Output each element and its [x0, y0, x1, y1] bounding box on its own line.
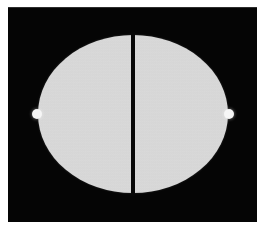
- figure-caption-text: Figure 4. Reconstructed image of the spl…: [0, 233, 264, 235]
- left-marker-bead: [32, 109, 42, 119]
- left-half-disc: [38, 35, 133, 193]
- figure-caption: Figure 4. Reconstructed image of the spl…: [0, 224, 264, 235]
- scan-image-plate: [8, 7, 257, 222]
- split-disc-phantom: [38, 35, 228, 193]
- figure-root: Figure 4. Reconstructed image of the spl…: [0, 0, 264, 235]
- central-gap-septum: [131, 32, 135, 196]
- right-marker-bead: [224, 109, 234, 119]
- right-half-disc: [133, 35, 228, 193]
